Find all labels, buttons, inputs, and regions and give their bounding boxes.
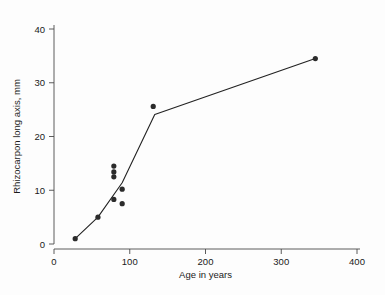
data-point [313, 56, 318, 61]
scatter-plot: 40 30 20 10 0 0 100 200 300 400 Age in y… [0, 0, 385, 295]
x-tick-label-0: 0 [51, 256, 56, 267]
y-tick-label-20: 20 [34, 131, 45, 142]
data-point [120, 201, 125, 206]
data-point [111, 169, 116, 174]
y-tick-label-0: 0 [40, 239, 45, 250]
y-axis-title: Rhizocarpon long axis, mm [11, 79, 22, 194]
data-point [111, 197, 116, 202]
x-tick-label-100: 100 [122, 256, 138, 267]
data-point [95, 215, 100, 220]
plot-background [0, 0, 385, 295]
x-tick-label-400: 400 [349, 256, 365, 267]
x-tick-label-200: 200 [198, 256, 214, 267]
y-tick-label-40: 40 [34, 24, 45, 35]
y-tick-label-10: 10 [34, 185, 45, 196]
data-point [151, 104, 156, 109]
x-tick-label-300: 300 [273, 256, 289, 267]
data-point [111, 163, 116, 168]
chart-figure: 40 30 20 10 0 0 100 200 300 400 Age in y… [0, 0, 385, 295]
data-point [120, 187, 125, 192]
data-point [111, 174, 116, 179]
y-tick-label-30: 30 [34, 77, 45, 88]
data-point [73, 236, 78, 241]
x-axis-title: Age in years [179, 269, 232, 280]
